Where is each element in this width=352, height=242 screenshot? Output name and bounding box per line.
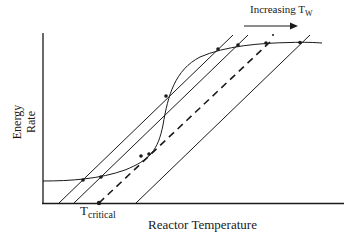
x-axis-label: Reactor Temperature <box>148 217 257 233</box>
arrow-label-main: Increasing T <box>250 3 305 15</box>
y-axis-label-line2: Rate <box>24 105 38 139</box>
intersection-dot <box>99 175 103 179</box>
intersection-dot <box>264 41 268 45</box>
arrow-head-icon <box>290 23 298 30</box>
critical-temperature-label: Tcritical <box>80 203 116 220</box>
intersection-dot <box>147 152 151 156</box>
increasing-tw-label: Increasing TW <box>250 3 313 18</box>
heat-removal-line-1 <box>59 35 233 203</box>
intersection-points <box>81 34 302 205</box>
heat-removal-line-4 <box>136 35 310 203</box>
critical-label-sub: critical <box>88 209 116 220</box>
y-axis-label-line1: Energy <box>10 105 24 139</box>
intersection-dot <box>139 154 143 158</box>
heat-generation-curve <box>43 42 322 181</box>
y-axis-label: Energy Rate <box>4 86 44 158</box>
heat-removal-line-critical-dashed <box>99 42 270 203</box>
diagram-canvas <box>0 0 352 242</box>
intersection-dot <box>81 178 85 182</box>
arrow-label-sub: W <box>305 9 313 18</box>
intersection-dot <box>236 43 240 47</box>
critical-label-main: T <box>80 203 88 218</box>
dashed-line-end-dot <box>272 34 274 36</box>
intersection-dot <box>298 41 302 45</box>
intersection-dot <box>164 94 168 98</box>
intersection-dot <box>216 47 220 51</box>
